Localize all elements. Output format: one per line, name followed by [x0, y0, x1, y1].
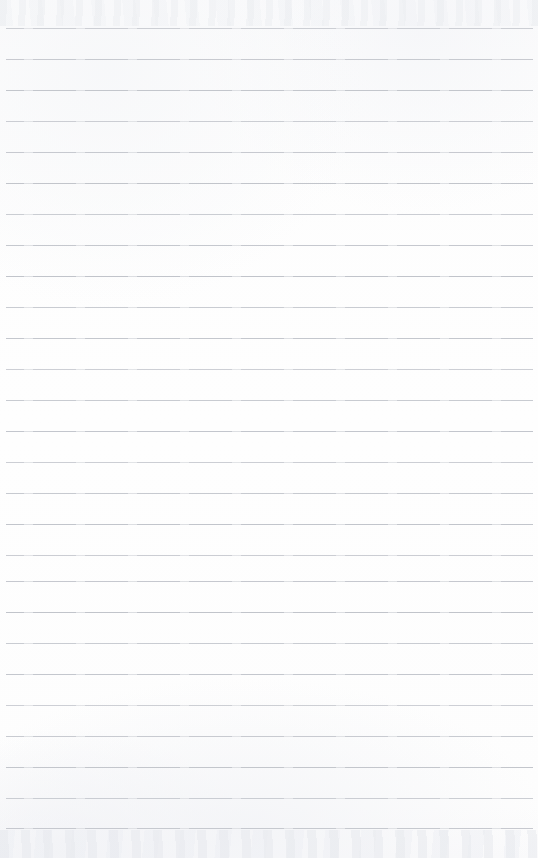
- rule-line: [6, 828, 533, 829]
- rule-line: [6, 431, 533, 432]
- lined-paper-sheet: [0, 0, 538, 858]
- rule-line: [6, 493, 533, 494]
- rule-line: [6, 612, 533, 613]
- rule-line: [6, 369, 533, 370]
- rule-line: [6, 555, 533, 556]
- rule-line: [6, 736, 533, 737]
- rule-line: [6, 121, 533, 122]
- rule-line: [6, 338, 533, 339]
- rule-line: [6, 767, 533, 768]
- rule-line: [6, 245, 533, 246]
- rule-line: [6, 674, 533, 675]
- rule-line: [6, 581, 533, 582]
- rule-line: [6, 276, 533, 277]
- rule-line: [6, 214, 533, 215]
- rule-line: [6, 183, 533, 184]
- rule-line: [6, 400, 533, 401]
- ruled-lines-group: [0, 0, 538, 858]
- rule-line: [6, 798, 533, 799]
- rule-line: [6, 307, 533, 308]
- rule-line: [6, 59, 533, 60]
- rule-line: [6, 28, 533, 29]
- rule-line: [6, 705, 533, 706]
- rule-line: [6, 643, 533, 644]
- rule-line: [6, 152, 533, 153]
- rule-line: [6, 90, 533, 91]
- rule-line: [6, 524, 533, 525]
- rule-line: [6, 462, 533, 463]
